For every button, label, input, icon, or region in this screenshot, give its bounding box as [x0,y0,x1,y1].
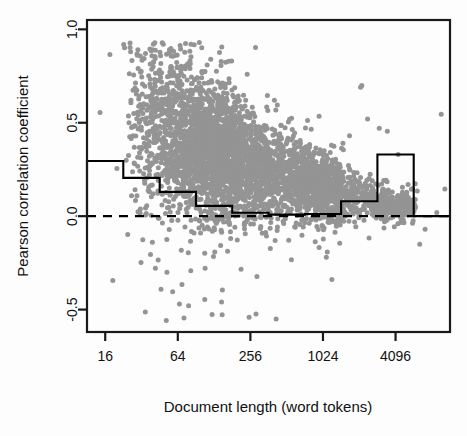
x-axis-tick-label: 64 [170,348,186,364]
data-point [160,140,165,145]
data-point [203,266,208,271]
x-axis-label: Document length (word tokens) [164,398,372,415]
data-point [158,72,163,77]
data-point [136,96,141,101]
data-point [174,130,179,135]
data-point [186,303,191,308]
data-point [323,204,328,209]
data-point [168,117,173,122]
data-point [359,83,364,88]
data-point [187,193,192,198]
data-point [191,167,196,172]
data-point [228,148,233,153]
data-point [197,40,202,45]
data-point [367,236,372,241]
data-point [191,149,196,154]
data-point [303,126,308,131]
data-point [147,189,152,194]
data-point [148,183,153,188]
data-point [174,60,179,65]
data-point [212,250,217,255]
data-point [385,129,390,134]
data-point [204,120,209,125]
data-point [157,67,162,72]
data-point [265,108,270,113]
data-point [353,224,358,229]
data-point [155,172,160,177]
data-point [254,205,259,210]
data-point [317,245,322,250]
data-point [206,115,211,120]
data-point [185,181,190,186]
data-point [415,188,420,193]
data-point [188,140,193,145]
data-point [294,174,299,179]
data-point [340,192,345,197]
data-point [318,147,323,152]
data-point [356,208,361,213]
data-point [226,129,231,134]
data-point [172,90,177,95]
data-point [220,150,225,155]
data-point [310,198,315,203]
data-point [178,68,183,73]
data-point [300,152,305,157]
data-point [170,289,175,294]
data-point [184,168,189,173]
y-axis-tick-label: -0.5 [64,297,80,321]
data-point [305,208,310,213]
data-point [164,270,169,275]
data-point [289,257,294,262]
data-point [168,64,173,69]
data-point [311,184,316,189]
data-point [141,171,146,176]
data-point [423,227,428,232]
data-point [143,51,148,56]
data-point [159,125,164,130]
data-point [380,201,385,206]
data-point [127,120,132,125]
data-point [312,161,317,166]
data-point [215,184,220,189]
data-point [341,147,346,152]
data-point [135,47,140,52]
data-point [291,150,296,155]
data-point [239,267,244,272]
data-point [265,93,270,98]
data-point [306,148,311,153]
data-point [107,52,112,57]
data-point [164,237,169,242]
data-point [143,166,148,171]
data-point [276,190,281,195]
data-point [268,220,273,225]
data-point [164,162,169,167]
data-point [175,218,180,223]
data-point [223,161,228,166]
data-point [223,194,228,199]
data-point [199,45,204,50]
data-point [165,85,170,90]
data-point [218,243,223,248]
data-point [159,90,164,95]
data-point [170,138,175,143]
data-point [281,150,286,155]
data-point [152,40,157,45]
data-point [187,119,192,124]
y-axis-tick-label: 0.5 [64,113,80,133]
data-point [401,196,406,201]
data-point [338,214,343,219]
data-point [316,227,321,232]
data-point [197,219,202,224]
data-point [368,191,373,196]
data-point [155,135,160,140]
data-point [300,186,305,191]
data-point [291,161,296,166]
data-point [183,64,188,69]
data-point [229,166,234,171]
data-point [187,66,192,71]
data-point [277,171,282,176]
data-point [134,88,139,93]
data-point [411,218,416,223]
data-point [203,129,208,134]
data-point [340,141,345,146]
